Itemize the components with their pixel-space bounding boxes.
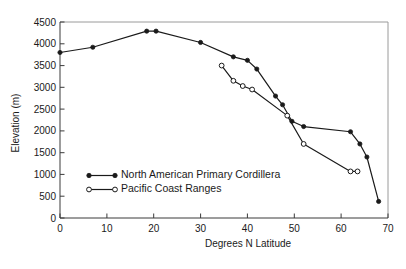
- data-point-filled: [154, 29, 158, 33]
- y-tick-label: 4000: [34, 38, 57, 49]
- data-point-open: [219, 63, 224, 68]
- y-tick-label: 3000: [34, 82, 57, 93]
- legend-entry-pacific: Pacific Coast Ranges: [87, 182, 222, 194]
- data-point-open: [285, 113, 290, 118]
- data-point-filled: [58, 50, 62, 54]
- legend-label: Pacific Coast Ranges: [121, 182, 221, 194]
- figure-caption-strip: [0, 261, 406, 269]
- data-point-filled: [231, 55, 235, 59]
- x-tick-label: 40: [242, 223, 254, 234]
- y-tick-label: 3500: [34, 60, 57, 71]
- data-point-filled: [365, 155, 369, 159]
- x-tick-label: 60: [336, 223, 348, 234]
- x-tick-label: 30: [195, 223, 207, 234]
- y-tick-label: 2500: [34, 104, 57, 115]
- y-tick-label: 2000: [34, 125, 57, 136]
- plot-frame: [60, 22, 388, 218]
- filled-circle-icon: [87, 173, 91, 177]
- data-point-filled: [198, 40, 202, 44]
- data-point-open: [348, 169, 353, 174]
- elevation-latitude-chart: 0 500 1000 1500 2000 2500 3000 3500 4000…: [0, 0, 406, 269]
- x-tick-label: 70: [382, 223, 394, 234]
- x-axis-tick-labels: 0 10 20 30 40 50 60 70: [57, 223, 394, 234]
- y-axis-tick-labels: 0 500 1000 1500 2000 2500 3000 3500 4000…: [34, 17, 57, 224]
- y-tick-label: 1500: [34, 147, 57, 158]
- y-tick-label: 4500: [34, 17, 57, 28]
- filled-circle-icon: [113, 173, 117, 177]
- legend-label: North American Primary Cordillera: [121, 168, 280, 180]
- data-point-filled: [145, 29, 149, 33]
- open-circle-icon: [113, 187, 118, 192]
- data-point-open: [301, 142, 306, 147]
- y-tick-label: 1000: [34, 169, 57, 180]
- x-tick-label: 0: [57, 223, 63, 234]
- data-point-filled: [377, 199, 381, 203]
- data-point-filled: [255, 67, 259, 71]
- data-point-filled: [245, 58, 249, 62]
- data-point-filled: [91, 45, 95, 49]
- data-point-filled: [280, 103, 284, 107]
- data-point-open: [231, 78, 236, 83]
- x-axis-title: Degrees N Latitude: [205, 238, 292, 249]
- legend-entry-cordillera: North American Primary Cordillera: [87, 168, 281, 180]
- x-tick-label: 50: [289, 223, 301, 234]
- data-point-filled: [273, 94, 277, 98]
- data-point-open: [250, 87, 255, 92]
- data-point-filled: [348, 130, 352, 134]
- y-axis-title: Elevation (m): [10, 94, 21, 153]
- figure-container: 0 500 1000 1500 2000 2500 3000 3500 4000…: [0, 0, 406, 269]
- y-tick-label: 500: [39, 191, 56, 202]
- series-2: [219, 63, 360, 174]
- chart-legend: North American Primary Cordillera Pacifi…: [87, 168, 281, 194]
- y-tick-label: 0: [50, 213, 56, 224]
- x-tick-label: 20: [148, 223, 160, 234]
- data-point-filled: [358, 142, 362, 146]
- data-point-open: [355, 169, 360, 174]
- data-point-filled: [302, 124, 306, 128]
- x-axis-ticks: [60, 214, 388, 219]
- open-circle-icon: [87, 187, 92, 192]
- data-point-open: [240, 84, 245, 89]
- x-tick-label: 10: [101, 223, 113, 234]
- series-line: [222, 66, 358, 172]
